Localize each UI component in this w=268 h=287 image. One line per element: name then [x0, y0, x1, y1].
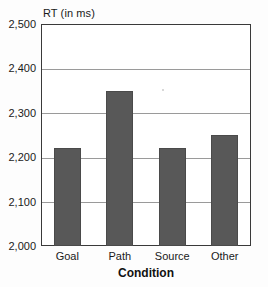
y-tick-label: 2,400: [0, 62, 36, 74]
bar-source: [159, 148, 186, 246]
y-tick-label: 2,000: [0, 240, 36, 252]
y-axis-title: RT (in ms): [43, 7, 95, 19]
y-tick-label: 2,200: [0, 151, 36, 163]
y-tick-label: 2,300: [0, 107, 36, 119]
bar-goal: [54, 148, 81, 246]
bar-path: [106, 91, 133, 246]
bars-layer: [41, 24, 251, 246]
bar-other: [211, 135, 238, 246]
x-tick-label: Other: [194, 250, 256, 262]
y-tick-label: 2,500: [0, 18, 36, 30]
x-axis-title: Condition: [41, 266, 251, 280]
y-tick-label: 2,100: [0, 196, 36, 208]
bar-chart-figure: RT (in ms) 2,0002,1002,2002,3002,4002,50…: [0, 0, 268, 287]
